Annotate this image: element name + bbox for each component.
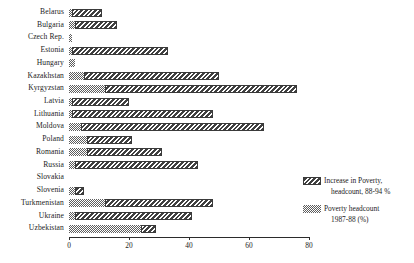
bar-segment-headcount (69, 136, 87, 144)
x-axis-tick (249, 237, 250, 240)
x-axis-tick-label: 60 (245, 241, 252, 250)
bar-segment-headcount (69, 59, 75, 67)
bar-row (69, 34, 309, 42)
category-label: Bulgaria (37, 21, 64, 29)
bar-segment-increase (105, 85, 297, 93)
bar-segment-increase (72, 110, 213, 118)
bar-segment-increase (105, 199, 213, 207)
category-label: Slovakia (37, 173, 64, 181)
bar-segment-increase (81, 123, 264, 131)
category-label: Slovenia (37, 186, 64, 194)
plot-area (69, 8, 309, 237)
bar-row (69, 225, 309, 233)
bar-segment-increase (72, 98, 129, 106)
poverty-bar-chart: BelarusBulgariaCzech Rep.EstoniaHungaryK… (0, 0, 414, 263)
bar-row (69, 174, 309, 182)
category-label: Estonia (41, 46, 64, 54)
bar-row (69, 110, 309, 118)
x-axis-tick (189, 237, 190, 240)
bar-row (69, 123, 309, 131)
legend-label-increase-line1: Increase in Poverty, (324, 176, 414, 187)
x-axis-tick (129, 237, 130, 240)
category-label: Latvia (44, 97, 64, 105)
bar-row (69, 199, 309, 207)
hatch-swatch-icon (303, 177, 321, 185)
category-label: Russia (43, 161, 64, 169)
legend-label-headcount-line2: 1987-88 (%) (331, 215, 414, 226)
category-label: Kazakhstan (28, 72, 64, 80)
bar-segment-headcount (69, 85, 105, 93)
category-label: Lithuania (34, 110, 64, 118)
bar-row (69, 47, 309, 55)
bar-segment-headcount (69, 148, 87, 156)
x-axis-tick-label: 20 (125, 241, 132, 250)
category-label: Kyrgyzstan (28, 84, 64, 92)
category-label: Moldova (36, 122, 64, 130)
bar-row (69, 148, 309, 156)
x-axis-tick (309, 237, 310, 240)
x-axis-tick (69, 237, 70, 240)
bar-segment-headcount (69, 72, 84, 80)
category-label: Belarus (40, 8, 64, 16)
bar-row (69, 85, 309, 93)
x-axis-tick-label: 80 (305, 241, 312, 250)
bar-row (69, 59, 309, 67)
legend-label-headcount-line1: Poverty headcount (324, 204, 414, 215)
category-label: Poland (42, 135, 64, 143)
category-label: Ukraine (39, 212, 64, 220)
category-label: Uzbekistan (29, 224, 64, 232)
bar-row (69, 98, 309, 106)
category-label: Turkmenistan (21, 199, 64, 207)
bar-row (69, 9, 309, 17)
category-label: Romania (36, 148, 64, 156)
legend-label-increase-line2: headcount, 88-94 % (331, 187, 414, 198)
bar-segment-increase (72, 9, 102, 17)
legend-entry-poverty-headcount: Poverty headcount 1987-88 (%) (303, 204, 414, 225)
bar-segment-increase (72, 47, 168, 55)
bar-segment-headcount (69, 123, 81, 131)
x-axis-tick-label: 0 (67, 241, 71, 250)
bar-segment-increase (75, 161, 198, 169)
bar-row (69, 187, 309, 195)
x-axis-tick-label: 40 (185, 241, 192, 250)
bar-segment-increase (75, 21, 117, 29)
bar-segment-increase (75, 187, 84, 195)
bar-segment-increase (141, 225, 156, 233)
chart-legend: Increase in Poverty, headcount, 88-94 % … (303, 176, 414, 232)
bar-row (69, 161, 309, 169)
category-label: Czech Rep. (28, 33, 64, 41)
bar-segment-increase (75, 212, 192, 220)
stipple-swatch-icon (303, 205, 321, 213)
bar-segment-headcount (69, 34, 72, 42)
category-axis-labels: BelarusBulgariaCzech Rep.EstoniaHungaryK… (0, 8, 64, 237)
bar-row (69, 212, 309, 220)
bar-segment-headcount (69, 225, 141, 233)
legend-entry-increase-in-poverty: Increase in Poverty, headcount, 88-94 % (303, 176, 414, 197)
bar-row (69, 72, 309, 80)
bar-row (69, 21, 309, 29)
bar-segment-increase (84, 72, 219, 80)
bar-segment-increase (87, 136, 132, 144)
bar-segment-headcount (69, 199, 105, 207)
bar-row (69, 136, 309, 144)
category-label: Hungary (37, 59, 64, 67)
bar-segment-increase (87, 148, 162, 156)
